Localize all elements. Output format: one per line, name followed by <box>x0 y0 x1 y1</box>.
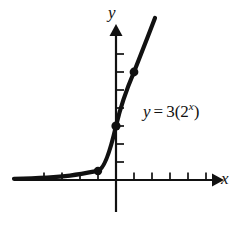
exponential-function-graph: y x y=3(2x) <box>0 0 239 232</box>
point-neg1 <box>94 167 102 175</box>
equation-coefficient: 3(2 <box>166 102 189 121</box>
y-axis-arrowhead <box>110 24 123 36</box>
point-one <box>130 68 139 77</box>
exponential-curve <box>14 18 155 179</box>
point-zero <box>111 121 120 130</box>
graph-canvas <box>0 0 239 232</box>
equation-operator: = <box>151 102 167 121</box>
equation-close-paren: ) <box>194 102 200 121</box>
equation-annotation: y=3(2x) <box>143 103 199 122</box>
equation-lhs: y <box>143 102 151 121</box>
x-axis-label: x <box>221 170 229 187</box>
y-axis-label: y <box>108 4 116 21</box>
